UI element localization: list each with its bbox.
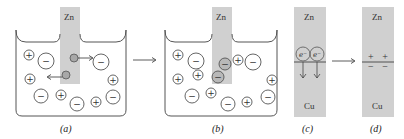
svg-text:−: −	[264, 92, 272, 102]
panel-label-c: (c)	[302, 123, 313, 134]
svg-text:−: −	[73, 99, 81, 109]
svg-text:+: +	[268, 75, 276, 85]
svg-text:−: −	[42, 56, 50, 66]
cu-label-c: Cu	[304, 101, 315, 111]
svg-text:+: +	[234, 55, 242, 65]
svg-text:−: −	[249, 57, 257, 67]
panel-a: +− +− +− +− −+	[16, 7, 126, 116]
svg-text:+: +	[207, 88, 215, 98]
svg-text:+: +	[26, 74, 34, 84]
diagram-canvas: +− +− +− +− −+ +− ++	[0, 0, 404, 139]
svg-text:−: −	[192, 56, 200, 66]
svg-text:−: −	[109, 92, 117, 102]
svg-text:−: −	[97, 57, 105, 67]
svg-text:−: −	[37, 91, 45, 101]
svg-text:+: +	[57, 90, 65, 100]
svg-text:−: −	[188, 91, 196, 101]
cu-label-d: Cu	[372, 101, 383, 111]
zn-label-a: Zn	[64, 12, 74, 22]
panel-label-a: (a)	[60, 123, 72, 134]
zn-label-c: Zn	[304, 12, 314, 22]
panel-label-d: (d)	[370, 123, 382, 134]
svg-text:+: +	[109, 75, 117, 85]
svg-text:e⁻: e⁻	[313, 51, 321, 59]
svg-text:+: +	[243, 97, 251, 107]
panel-label-b: (b)	[212, 123, 224, 134]
zn-label-b: Zn	[216, 12, 226, 22]
negative-charges: − −	[368, 61, 391, 72]
svg-text:−: −	[221, 59, 229, 69]
svg-text:+: +	[174, 74, 182, 84]
svg-text:e⁻: e⁻	[299, 51, 307, 59]
svg-text:+: +	[92, 97, 100, 107]
panel-b: +− ++ −+ −+ −+ −+ −−	[165, 7, 277, 116]
svg-text:−: −	[224, 99, 232, 109]
zn-label-d: Zn	[372, 12, 382, 22]
svg-text:+: +	[25, 50, 33, 60]
svg-text:+: +	[174, 50, 182, 60]
svg-text:−: −	[214, 72, 222, 82]
svg-text:+: +	[194, 70, 202, 80]
